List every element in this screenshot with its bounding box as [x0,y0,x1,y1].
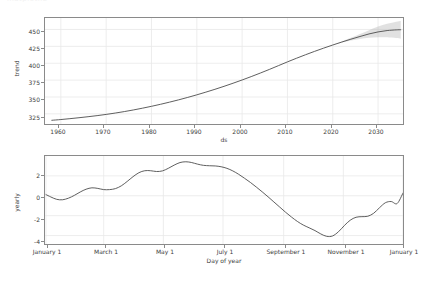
trend-xtick-2010: 2010 [270,128,300,135]
yearly-xtick-january-1-end: January 1 [379,248,423,255]
trend-ytick-400: 400 [18,62,40,69]
trend-xtick-2000: 2000 [225,128,255,135]
yearly-ytick-minus4: -4 [18,238,40,245]
trend-panel: trend 450 425 400 375 350 325 1960 1970 … [0,0,418,145]
trend-plot-svg [45,18,403,124]
yearly-axis-label-x: Day of year [194,257,254,264]
yearly-xtick-july-1: July 1 [200,248,250,255]
trend-plot-area [44,17,404,125]
yearly-plot-svg [45,156,403,244]
yearly-xtick-march-1: March 1 [81,248,131,255]
yearly-xtick-january-1: January 1 [22,248,72,255]
yearly-xtick-september-1: September 1 [261,248,311,255]
trend-xtick-1980: 1980 [134,128,164,135]
yearly-ytick-minus2: -2 [18,216,40,223]
trend-ytick-350: 350 [18,96,40,103]
trend-axis-label-x: ds [209,136,239,143]
yearly-xtick-november-1: November 1 [321,248,371,255]
trend-xtick-2030: 2030 [361,128,391,135]
trend-ytick-375: 375 [18,79,40,86]
yearly-ytick-2: 2 [18,172,40,179]
yearly-panel: yearly 2 0 -2 -4 January 1 March 1 May 1… [0,146,418,291]
trend-xtick-1970: 1970 [88,128,118,135]
trend-ytick-425: 425 [18,45,40,52]
trend-ytick-325: 325 [18,114,40,121]
yearly-ytick-0: 0 [18,194,40,201]
trend-xtick-2020: 2020 [316,128,346,135]
trend-ytick-450: 450 [18,28,40,35]
trend-xtick-1990: 1990 [179,128,209,135]
trend-xtick-1960: 1960 [43,128,73,135]
yearly-plot-area [44,155,404,245]
yearly-xtick-may-1: May 1 [140,248,190,255]
